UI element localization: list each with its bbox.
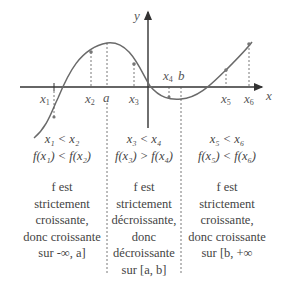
label-x1: x1 <box>39 91 50 107</box>
function-curve <box>34 42 252 138</box>
desc-line: croissante, <box>182 212 272 229</box>
desc-line: strictement <box>182 196 272 213</box>
ineq-f: f(x₁) < f(x₂) <box>17 148 107 165</box>
label-x3: x3 <box>128 91 139 107</box>
y-axis-label: y <box>132 8 140 23</box>
label-x2: x2 <box>84 91 95 107</box>
label-b: b <box>178 68 185 83</box>
desc-line: f est <box>17 179 107 196</box>
point-x3 <box>132 62 136 66</box>
column-increasing-right: x₅ < x₆ f(x₅) < f(x₆) f est strictement … <box>182 131 272 262</box>
desc-line: strictement <box>107 196 181 213</box>
desc-line: f est <box>182 179 272 196</box>
label-x5: x5 <box>220 91 231 107</box>
column-increasing-left: x₁ < x₂ f(x₁) < f(x₂) f est strictement … <box>17 131 107 262</box>
desc-line: donc <box>107 229 181 246</box>
desc-line: sur -∞, a] <box>17 245 107 262</box>
desc-line: donc croissante <box>17 229 107 246</box>
desc-line: donc croissante <box>182 229 272 246</box>
x-axis-label: x <box>265 88 272 103</box>
ineq-x: x₅ < x₆ <box>182 131 272 148</box>
desc-line: strictement <box>17 196 107 213</box>
column-decreasing: x₃ < x₄ f(x₃) > f(x₄) f est strictement … <box>107 131 181 278</box>
desc-line: sur [a, b] <box>107 262 181 279</box>
ineq-x: x₁ < x₂ <box>17 131 107 148</box>
desc-line: décroissante, <box>107 212 181 229</box>
point-x2 <box>89 50 93 54</box>
desc-line: f est <box>107 179 181 196</box>
ineq-f: f(x₅) < f(x₆) <box>182 148 272 165</box>
ineq-x: x₃ < x₄ <box>107 131 181 148</box>
desc-line: croissante, <box>17 212 107 229</box>
desc-line: décroissante <box>107 245 181 262</box>
point-x5 <box>224 68 228 72</box>
label-a: a <box>103 90 110 105</box>
ineq-f: f(x₃) > f(x₄) <box>107 148 181 165</box>
point-x4 <box>167 95 170 98</box>
label-x4: x4 <box>162 68 173 84</box>
label-x6: x6 <box>243 91 254 107</box>
point-x1 <box>52 115 55 118</box>
desc-line: sur [b, +∞ <box>182 245 272 262</box>
point-x6 <box>247 42 251 46</box>
